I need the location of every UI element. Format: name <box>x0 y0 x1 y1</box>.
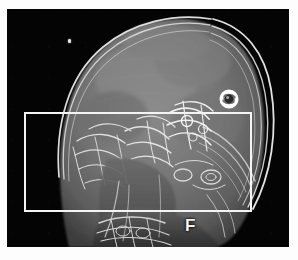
orientation-marker-f: F <box>185 217 195 234</box>
scan-canvas[interactable]: F <box>7 9 289 247</box>
viewer-page: F <box>0 0 298 260</box>
rotate-icon[interactable] <box>214 84 244 114</box>
roi-selection-rectangle[interactable] <box>24 112 252 212</box>
bright-speck-artifact <box>68 39 71 43</box>
